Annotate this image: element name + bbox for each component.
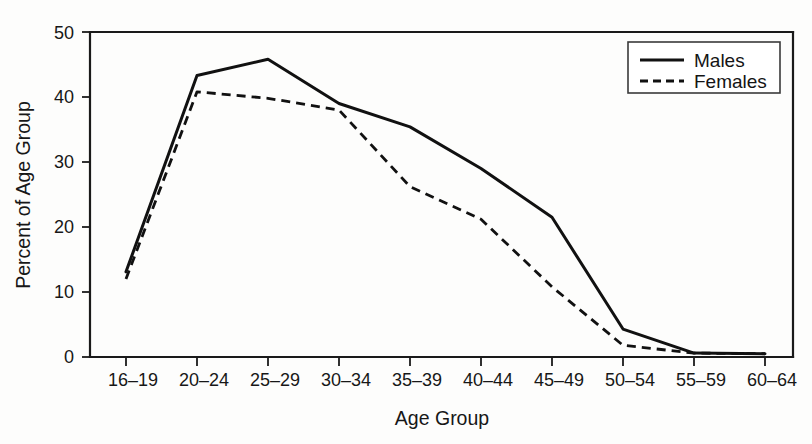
x-tick-marks <box>126 357 765 366</box>
legend-label-females: Females <box>694 71 767 92</box>
x-tick-label-6: 45–49 <box>534 370 584 390</box>
x-tick-label-0: 16–19 <box>108 370 158 390</box>
y-tick-label: 30 <box>54 152 74 172</box>
legend: Males Females <box>628 42 780 93</box>
x-tick-label-7: 50–54 <box>605 370 655 390</box>
series-line-females <box>126 92 765 354</box>
y-tick-label: 50 <box>54 23 74 43</box>
y-axis-title: Percent of Age Group <box>12 101 34 289</box>
y-tick-label: 10 <box>54 282 74 302</box>
x-tick-label-3: 30–34 <box>321 370 371 390</box>
x-tick-label-4: 35–39 <box>392 370 442 390</box>
y-tick-marks <box>82 32 90 357</box>
x-tick-labels: 16–19 20–24 25–29 30–34 35–39 40–44 45–4… <box>108 370 797 390</box>
x-tick-label-9: 60–64 <box>747 370 797 390</box>
y-tick-labels: 0 10 20 30 40 50 <box>54 23 74 367</box>
legend-label-males: Males <box>694 50 745 71</box>
series-line-males <box>126 59 765 353</box>
y-tick-label: 20 <box>54 217 74 237</box>
y-tick-label: 40 <box>54 87 74 107</box>
x-tick-label-8: 55–59 <box>676 370 726 390</box>
chart-figure: 0 10 20 30 40 50 16–19 20–24 25–29 30–34 <box>0 0 812 444</box>
x-tick-label-2: 25–29 <box>250 370 300 390</box>
line-chart: 0 10 20 30 40 50 16–19 20–24 25–29 30–34 <box>0 0 812 444</box>
x-axis-title: Age Group <box>395 407 489 429</box>
x-tick-label-1: 20–24 <box>179 370 229 390</box>
y-tick-label: 0 <box>64 347 74 367</box>
x-tick-label-5: 40–44 <box>463 370 513 390</box>
